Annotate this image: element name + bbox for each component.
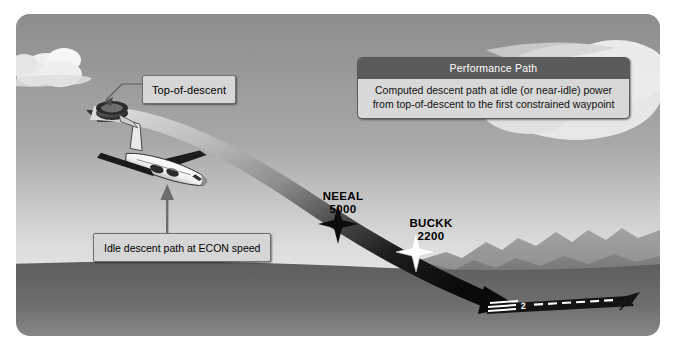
callout-performance-path[interactable]: Performance Path Computed descent path a…: [357, 57, 630, 119]
callout-performance-path-body: Computed descent path at idle (or near-i…: [358, 79, 629, 118]
callout-performance-path-line2: from top-of-descent to the first constra…: [366, 98, 621, 112]
diagram-canvas: 2 Top-of-descent Idle descent path at EC…: [0, 0, 676, 350]
runway-number: 2: [521, 301, 527, 311]
callout-top-of-descent[interactable]: Top-of-descent: [142, 75, 236, 104]
waypoint-label-neeal: NEEAL 5000: [308, 190, 378, 216]
waypoint-name-neeal: NEEAL: [308, 190, 378, 203]
waypoint-name-buckk: BUCKK: [398, 217, 464, 230]
waypoint-label-buckk: BUCKK 2200: [398, 217, 464, 243]
waypoint-altitude-buckk: 2200: [398, 230, 464, 243]
illustration-frame: 2 Top-of-descent Idle descent path at EC…: [16, 14, 660, 336]
callout-idle-descent[interactable]: Idle descent path at ECON speed: [93, 233, 271, 262]
waypoint-altitude-neeal: 5000: [308, 203, 378, 216]
callout-performance-path-line1: Computed descent path at idle (or near-i…: [366, 84, 621, 98]
ground-plane: [16, 261, 660, 336]
callout-performance-path-header: Performance Path: [358, 58, 629, 79]
callout-idle-descent-label: Idle descent path at ECON speed: [104, 242, 260, 254]
callout-top-of-descent-label: Top-of-descent: [152, 84, 226, 96]
